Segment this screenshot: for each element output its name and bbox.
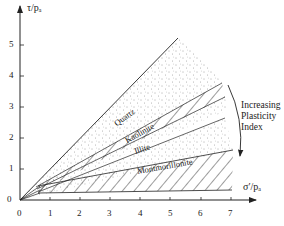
x-axis-title: σ′/pₐ	[243, 181, 261, 192]
x-tick-5: 5	[168, 208, 173, 218]
y-tick-4: 4	[9, 70, 14, 80]
note-line-2: Plasticity	[241, 111, 281, 122]
x-tick-0: 0	[17, 208, 22, 218]
note-line-1: Increasing	[241, 100, 281, 111]
y-tick-5: 5	[9, 39, 14, 49]
x-tick-1: 1	[48, 208, 53, 218]
note-line-3: Index	[241, 122, 281, 133]
shear-strength-envelope-diagram: τ/pₐ σ′/pₐ 0 1 2 3 4 5 6 7 0 1 2 3 4 5 Q…	[0, 0, 284, 226]
x-tick-3: 3	[107, 208, 112, 218]
x-tick-6: 6	[198, 208, 203, 218]
x-tick-7: 7	[228, 208, 233, 218]
x-tick-2: 2	[77, 208, 82, 218]
y-tick-3: 3	[9, 101, 14, 111]
y-tick-0: 0	[7, 194, 12, 204]
increasing-plasticity-note: Increasing Plasticity Index	[241, 100, 281, 133]
y-tick-1: 1	[9, 163, 14, 173]
x-tick-4: 4	[138, 208, 143, 218]
y-axis-title: τ/pₐ	[27, 2, 42, 13]
y-tick-2: 2	[9, 132, 14, 142]
